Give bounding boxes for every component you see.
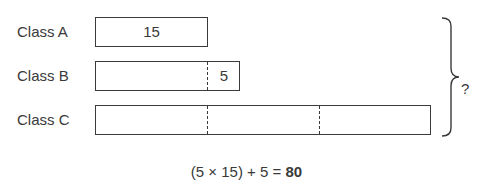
bar-class-a: 15 — [95, 17, 208, 47]
equation: (5 × 15) + 5 = 80 — [0, 163, 493, 180]
curly-brace-icon — [438, 16, 462, 138]
bar-class-c — [95, 105, 431, 135]
segment-divider — [207, 106, 208, 134]
equation-result: 80 — [285, 163, 302, 180]
row-label-class-c: Class C — [17, 105, 70, 135]
bar-value-class-b: 5 — [208, 62, 240, 90]
equation-expression: (5 × 15) + 5 = — [191, 163, 286, 180]
total-question-mark: ? — [461, 80, 469, 97]
row-label-class-b: Class B — [17, 61, 69, 91]
row-label-class-a: Class A — [17, 17, 68, 47]
bar-value-class-a: 15 — [96, 18, 207, 46]
bar-class-b: 5 — [95, 61, 240, 91]
segment-divider — [319, 106, 320, 134]
